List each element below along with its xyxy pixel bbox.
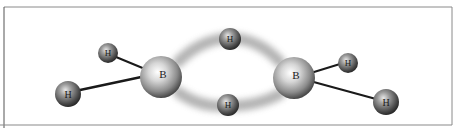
atom-label: H bbox=[227, 34, 234, 44]
atom-label: H bbox=[64, 89, 71, 100]
atom-label: B bbox=[292, 69, 299, 81]
atom-label: H bbox=[345, 58, 352, 68]
atom-label: H bbox=[382, 97, 389, 108]
atom-label: H bbox=[225, 100, 232, 110]
hydrogen-atom-h2: H bbox=[55, 81, 81, 107]
atoms: BBHHHHHH bbox=[55, 28, 399, 116]
atom-label: B bbox=[159, 68, 166, 80]
boron-atom-b2: B bbox=[273, 57, 315, 99]
boron-atom-b1: B bbox=[140, 56, 182, 98]
bond-b2-h5 bbox=[314, 64, 340, 72]
hydrogen-atom-h6: H bbox=[373, 89, 399, 115]
bond-b2-h6 bbox=[310, 81, 376, 99]
terminal-bonds bbox=[80, 57, 376, 99]
hydrogen-atom-h3: H bbox=[219, 28, 241, 50]
hydrogen-atom-h4: H bbox=[217, 94, 239, 116]
hydrogen-atom-h5: H bbox=[338, 53, 358, 73]
diborane-diagram: BBHHHHHH bbox=[0, 0, 456, 131]
atom-label: H bbox=[105, 48, 112, 58]
hydrogen-atom-h1: H bbox=[98, 43, 118, 63]
bond-b1-h1 bbox=[116, 57, 145, 69]
bond-b1-h2 bbox=[80, 76, 146, 90]
